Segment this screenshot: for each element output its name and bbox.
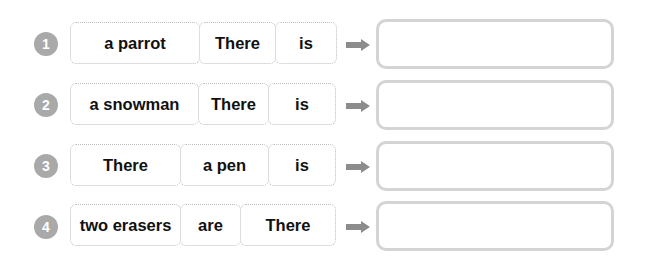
answer-field[interactable] (376, 201, 614, 251)
question-number-badge: 4 (34, 215, 58, 239)
word-cards: a snowman There is (70, 83, 336, 127)
word-card-label: is (295, 156, 309, 175)
exercise-row-2: 2 a snowman There is (0, 80, 646, 136)
word-card-label: a parrot (104, 34, 165, 53)
word-card[interactable]: a parrot (70, 22, 200, 64)
word-card-label: a snowman (90, 95, 180, 114)
arrow-right-icon (346, 100, 370, 112)
word-cards: two erasers are There (70, 204, 336, 248)
word-card-label: a pen (203, 156, 246, 175)
answer-field[interactable] (376, 141, 614, 191)
word-cards: a parrot There is (70, 22, 336, 66)
word-card[interactable]: two erasers (70, 204, 181, 246)
question-number-badge: 2 (34, 93, 58, 117)
word-card-label: There (211, 95, 256, 114)
word-card[interactable]: is (268, 83, 336, 125)
word-card[interactable]: a pen (180, 144, 269, 186)
exercise-row-3: 3 There a pen is (0, 141, 646, 197)
exercise-row-4: 4 two erasers are There (0, 201, 646, 257)
word-card-label: is (299, 34, 313, 53)
word-card[interactable]: is (275, 22, 337, 64)
exercise-row-1: 1 a parrot There is (0, 19, 646, 75)
word-card[interactable]: are (180, 204, 241, 246)
word-card-label: There (266, 216, 311, 235)
word-card[interactable]: a snowman (70, 83, 199, 125)
word-card-label: There (215, 34, 260, 53)
arrow-right-icon (346, 161, 370, 173)
word-card-label: are (198, 216, 223, 235)
word-card-label: is (295, 95, 309, 114)
word-card-label: There (103, 156, 148, 175)
answer-field[interactable] (376, 80, 614, 130)
arrow-right-icon (346, 221, 370, 233)
answer-field[interactable] (376, 19, 614, 69)
word-card[interactable]: There (199, 22, 276, 64)
word-card[interactable]: There (198, 83, 269, 125)
arrow-right-icon (346, 39, 370, 51)
word-card-label: two erasers (80, 216, 172, 235)
word-card[interactable]: is (268, 144, 336, 186)
word-card[interactable]: There (240, 204, 336, 246)
word-card[interactable]: There (70, 144, 181, 186)
question-number-badge: 3 (34, 154, 58, 178)
word-cards: There a pen is (70, 144, 336, 188)
question-number-badge: 1 (34, 32, 58, 56)
